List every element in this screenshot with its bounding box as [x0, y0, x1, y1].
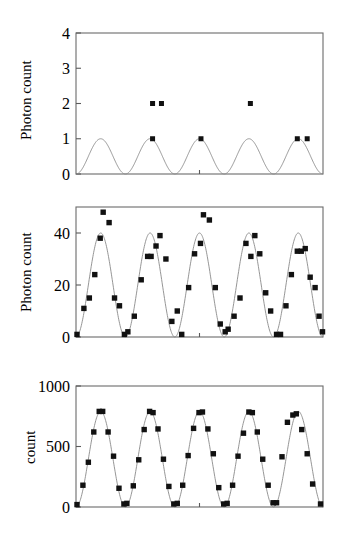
data-point-marker — [98, 236, 103, 241]
data-point-marker — [166, 484, 171, 489]
data-point-marker — [157, 233, 162, 238]
data-point-marker — [175, 501, 180, 506]
plot-frame — [76, 386, 323, 507]
data-point-marker — [186, 285, 191, 290]
data-point-marker — [198, 241, 203, 246]
data-point-marker — [159, 101, 164, 106]
plot-frame — [76, 207, 323, 337]
panel-top: Photon count 01234 — [0, 0, 357, 180]
data-point-marker — [250, 410, 255, 415]
data-point-marker — [303, 246, 308, 251]
panel-middle-ylabel: Photon count — [18, 202, 35, 342]
data-point-marker — [243, 241, 248, 246]
data-point-marker — [132, 314, 137, 319]
data-point-marker — [257, 251, 262, 256]
data-point-marker — [224, 501, 229, 506]
fit-curve — [76, 139, 323, 174]
data-point-marker — [191, 426, 196, 431]
data-point-marker — [150, 410, 155, 415]
data-point-marker — [299, 427, 304, 432]
data-point-marker — [265, 483, 270, 488]
data-point-marker — [74, 502, 79, 507]
data-point-marker — [304, 451, 309, 456]
data-point-marker — [295, 136, 300, 141]
data-point-marker — [312, 285, 317, 290]
data-point-marker — [106, 220, 111, 225]
data-point-marker — [230, 483, 235, 488]
data-point-marker — [192, 251, 197, 256]
data-point-marker — [180, 483, 185, 488]
data-point-marker — [201, 212, 206, 217]
data-point-marker — [112, 295, 117, 300]
data-point-marker — [294, 411, 299, 416]
data-point-marker — [285, 420, 290, 425]
data-point-marker — [116, 486, 121, 491]
data-point-marker — [318, 501, 323, 506]
data-point-marker — [213, 285, 218, 290]
data-point-marker — [274, 500, 279, 505]
data-point-marker — [111, 453, 116, 458]
data-point-marker — [225, 327, 230, 332]
data-point-marker — [80, 483, 85, 488]
data-point-marker — [252, 233, 257, 238]
data-point-marker — [263, 290, 268, 295]
y-tick-label: 0 — [62, 499, 70, 516]
data-point-marker — [255, 429, 260, 434]
data-point-marker — [100, 409, 105, 414]
data-point-marker — [316, 314, 321, 319]
data-point-marker — [305, 136, 310, 141]
data-point-marker — [136, 457, 141, 462]
y-tick-label: 4 — [62, 25, 70, 42]
data-point-marker — [163, 256, 168, 261]
data-point-marker — [148, 254, 153, 259]
y-tick-label: 0 — [62, 166, 70, 181]
data-point-marker — [86, 460, 91, 465]
data-point-marker — [320, 329, 325, 334]
data-point-marker — [150, 101, 155, 106]
data-point-marker — [87, 295, 92, 300]
data-point-marker — [289, 272, 294, 277]
panel-middle: Photon count 02040 — [0, 180, 357, 360]
data-point-marker — [200, 409, 205, 414]
y-tick-label: 0 — [62, 329, 70, 346]
data-point-marker — [179, 332, 184, 337]
plot-frame — [76, 33, 323, 174]
y-tick-label: 3 — [62, 60, 70, 77]
data-point-marker — [279, 454, 284, 459]
data-point-marker — [155, 426, 160, 431]
data-point-marker — [117, 303, 122, 308]
data-point-marker — [161, 457, 166, 462]
data-point-marker — [124, 501, 129, 506]
y-tick-label: 40 — [54, 225, 70, 242]
data-point-marker — [150, 136, 155, 141]
data-point-marker — [260, 457, 265, 462]
data-point-marker — [218, 321, 223, 326]
data-point-marker — [169, 319, 174, 324]
data-point-marker — [207, 217, 212, 222]
data-point-marker — [74, 332, 79, 337]
data-point-marker — [105, 429, 110, 434]
data-point-marker — [248, 254, 253, 259]
data-point-marker — [235, 453, 240, 458]
panel-bottom-plot: 05001000 — [0, 360, 357, 535]
data-point-marker — [81, 306, 86, 311]
y-tick-label: 2 — [62, 95, 70, 112]
data-point-marker — [241, 430, 246, 435]
panel-top-ylabel: Photon count — [18, 30, 35, 170]
data-point-marker — [237, 295, 242, 300]
data-point-marker — [216, 485, 221, 490]
data-point-marker — [175, 308, 180, 313]
data-point-marker — [141, 427, 146, 432]
data-point-marker — [248, 101, 253, 106]
data-point-marker — [307, 275, 312, 280]
panel-top-plot: 01234 — [0, 0, 357, 180]
data-point-marker — [268, 308, 273, 313]
panel-bottom: count 05001000 — [0, 360, 357, 535]
panel-bottom-ylabel: count — [22, 405, 39, 490]
figure-container: Photon count 01234 Photon count 02040 co… — [0, 0, 357, 535]
data-point-marker — [92, 272, 97, 277]
data-point-marker — [278, 332, 283, 337]
y-tick-label: 1000 — [38, 378, 70, 395]
y-tick-label: 20 — [54, 277, 70, 294]
data-point-marker — [205, 426, 210, 431]
